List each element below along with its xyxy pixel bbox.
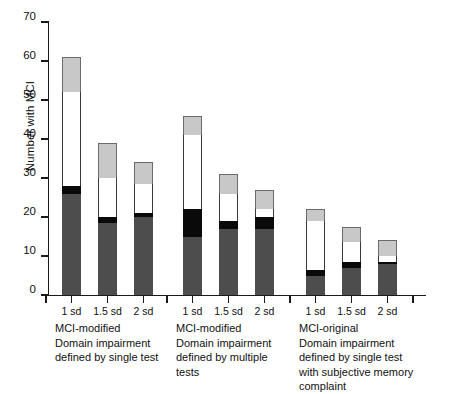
bar-stack [378, 240, 397, 295]
y-axis-tick-label: 60 [0, 50, 36, 62]
x-axis-tick [387, 296, 388, 303]
x-axis-tick [315, 296, 316, 303]
bar-stack [219, 174, 238, 295]
x-axis-tick [143, 296, 144, 303]
x-axis-tick-label: 2 sd [358, 306, 418, 317]
y-axis-tick-label: 10 [0, 245, 36, 257]
y-axis-tick-label: 20 [0, 206, 36, 218]
x-axis-group-caption: MCI-original Domain impairment defined b… [299, 321, 439, 394]
bar-segment-dark-gray [255, 229, 274, 295]
bar-stack [134, 162, 153, 295]
bar-segment-dark-gray [134, 217, 153, 295]
bar-stack [342, 227, 361, 295]
y-axis-tick-label: 30 [0, 167, 36, 179]
bar-segment-white [134, 184, 153, 213]
bar-segment-black [62, 186, 81, 194]
y-axis-tick-label: 70 [0, 11, 36, 23]
x-axis-tick [71, 296, 72, 303]
bar-segment-light-gray [62, 57, 81, 92]
bar-segment-dark-gray [306, 276, 325, 296]
bar-segment-dark-gray [378, 264, 397, 295]
x-axis-group-caption: MCI-modified Domain impairment defined b… [55, 321, 195, 365]
bar-segment-black [255, 217, 274, 229]
bar-segment-dark-gray [62, 194, 81, 295]
x-axis-boundary-tick [289, 296, 290, 303]
bar-segment-white [342, 242, 361, 262]
x-axis-tick [351, 296, 352, 303]
bar-stack [255, 190, 274, 295]
plot-area [48, 22, 426, 295]
bar-segment-dark-gray [342, 268, 361, 295]
bar-stack [62, 57, 81, 295]
bar-segment-white [306, 221, 325, 270]
x-axis-tick [264, 296, 265, 303]
bar-segment-light-gray [98, 143, 117, 178]
x-axis-tick [192, 296, 193, 303]
y-axis-tick-label: 40 [0, 128, 36, 140]
bar-segment-black [219, 221, 238, 229]
bar-segment-dark-gray [98, 223, 117, 295]
bar-segment-light-gray [306, 209, 325, 221]
y-axis-tick-label: 50 [0, 89, 36, 101]
bar-stack [98, 143, 117, 295]
bar-segment-dark-gray [219, 229, 238, 295]
bar-segment-white [219, 194, 238, 221]
bar-stack [306, 209, 325, 295]
bar-segment-light-gray [134, 162, 153, 183]
bar-segment-black [183, 209, 202, 236]
bar-segment-dark-gray [183, 237, 202, 296]
bar-segment-light-gray [378, 240, 397, 256]
bar-segment-light-gray [219, 174, 238, 194]
bar-stack [183, 116, 202, 295]
bar-segment-white [98, 178, 117, 217]
bar-segment-white [183, 135, 202, 209]
bar-segment-light-gray [183, 116, 202, 136]
x-axis-boundary-tick [166, 296, 167, 303]
x-axis-tick [107, 296, 108, 303]
x-axis-boundary-tick [45, 296, 46, 303]
bar-segment-light-gray [255, 190, 274, 210]
bar-segment-white [255, 209, 274, 217]
x-axis-boundary-tick [412, 296, 413, 303]
bar-segment-white [62, 92, 81, 186]
bar-segment-light-gray [342, 227, 361, 243]
y-axis-tick-label: 0 [0, 284, 36, 296]
x-axis-group-caption: MCI-modified Domain impairment defined b… [176, 321, 316, 379]
x-axis-tick [228, 296, 229, 303]
